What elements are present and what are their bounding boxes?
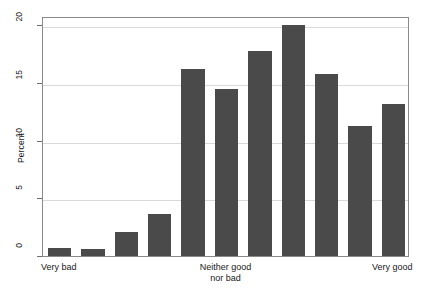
bar: [115, 232, 138, 256]
y-tick-10: 10: [0, 137, 42, 147]
bar-chart: Percent 05101520 Very badNeither good no…: [0, 0, 429, 296]
y-tick-0: 0: [0, 252, 42, 262]
gridline-20: [43, 27, 408, 28]
bar: [81, 249, 104, 256]
bar: [215, 89, 238, 256]
y-tick-label-10: 10: [14, 128, 24, 156]
bar: [48, 248, 71, 256]
y-tick-5: 5: [0, 194, 42, 204]
y-axis-ticks: 05101520: [0, 0, 42, 296]
y-tick-20: 20: [0, 21, 42, 31]
y-tick-label-20: 20: [14, 12, 24, 40]
x-axis-label-1: Very bad: [0, 262, 119, 273]
x-axis-label-2: Neither good nor bad: [166, 262, 286, 284]
gridline-15: [43, 85, 408, 86]
bar: [181, 69, 204, 256]
y-tick-label-5: 5: [14, 185, 24, 213]
bar: [315, 74, 338, 256]
bar: [148, 214, 171, 256]
bar: [248, 51, 271, 256]
bar: [382, 104, 405, 256]
bar: [282, 25, 305, 256]
x-axis-label-3: Very good: [332, 262, 429, 273]
y-tick-15: 15: [0, 79, 42, 89]
y-tick-label-15: 15: [14, 70, 24, 98]
plot-area: [42, 17, 409, 257]
bar: [348, 126, 371, 256]
